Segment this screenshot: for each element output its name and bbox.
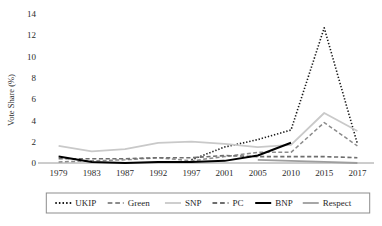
x-tick-label: 1983: [83, 168, 102, 178]
y-tick-label: 8: [32, 73, 37, 83]
legend-label: Respect: [323, 198, 352, 208]
x-tick-label: 1987: [116, 168, 135, 178]
legend-label: BNP: [275, 198, 293, 208]
x-tick-label: 2017: [348, 168, 367, 178]
legend-label: SNP: [185, 198, 202, 208]
x-tick-label: 2001: [216, 168, 234, 178]
x-tick-label: 1979: [50, 168, 69, 178]
y-tick-label: 0: [32, 158, 37, 168]
chart-canvas: 02468101214 1979198319871992199720012005…: [0, 0, 382, 226]
y-tick-label: 2: [32, 137, 37, 147]
legend-label: Green: [128, 198, 150, 208]
x-tick-label: 1997: [182, 168, 201, 178]
y-tick-label: 10: [27, 52, 37, 62]
y-tick-label: 6: [32, 94, 37, 104]
x-tick-label: 2005: [249, 168, 268, 178]
legend-label: UKIP: [75, 198, 96, 208]
vote-share-line-chart: 02468101214 1979198319871992199720012005…: [0, 0, 382, 226]
y-tick-label: 12: [27, 30, 36, 40]
chart-legend: UKIPGreenSNPPCBNPRespect: [46, 193, 369, 213]
y-tick-label: 4: [32, 116, 37, 126]
y-axis-title: Vote Share (%): [6, 74, 16, 126]
x-tick-label: 2010: [282, 168, 301, 178]
legend-label: PC: [233, 198, 244, 208]
y-tick-label: 14: [27, 9, 37, 19]
x-tick-label: 2015: [315, 168, 334, 178]
x-tick-label: 1992: [149, 168, 167, 178]
